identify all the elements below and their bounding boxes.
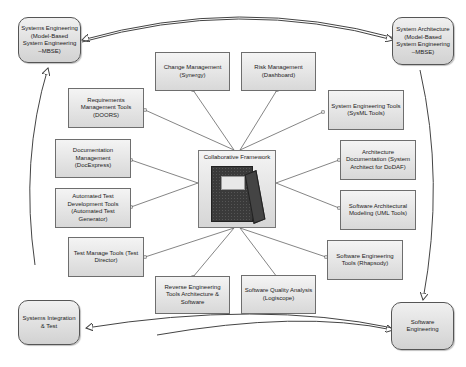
box-label: Automated Test Development Tools (Automa… xyxy=(58,193,128,223)
architecture-documentation-box: Architecture Documentation (System Archi… xyxy=(340,140,416,180)
node-label: Systems Engineering (Model-Based System … xyxy=(21,25,78,55)
node-label: System Architecture (Model-Based System … xyxy=(395,26,451,56)
node-label: Systems Integration & Test xyxy=(21,315,77,330)
systems-integration-test-node: Systems Integration & Test xyxy=(18,300,80,345)
risk-management-box: Risk Management (Dashboard) xyxy=(241,52,316,91)
system-architecture-node: System Architecture (Model-Based System … xyxy=(392,17,454,65)
collaborative-framework-hub: Collaborative Framework xyxy=(198,150,276,228)
box-label: Documentation Management (DocExpress) xyxy=(58,147,128,170)
requirements-management-box: Requirements Management Tools (DOORS) xyxy=(68,88,144,128)
documentation-management-box: Documentation Management (DocExpress) xyxy=(55,139,131,178)
box-label: Software Architectural Modeling (UML Too… xyxy=(343,203,413,218)
test-manage-tools-box: Test Manage Tools (Test Director) xyxy=(68,237,144,277)
hub-title: Collaborative Framework xyxy=(199,154,275,160)
box-label: Requirements Management Tools (DOORS) xyxy=(71,97,141,120)
automated-test-development-box: Automated Test Development Tools (Automa… xyxy=(55,188,131,228)
software-engineering-node: Software Engineering xyxy=(391,302,454,350)
box-label: Software Engineering Tools (Rhapsody) xyxy=(330,253,400,268)
software-quality-analysis-box: Software Quality Analysis (Logiscope) xyxy=(241,275,316,314)
box-label: Reverse Engineering Tools Architecture &… xyxy=(158,284,227,307)
system-engineering-tools-box: System Engineering Tools (SysML Tools) xyxy=(328,90,404,130)
box-label: Test Manage Tools (Test Director) xyxy=(71,250,141,265)
systems-engineering-node: Systems Engineering (Model-Based System … xyxy=(18,17,81,63)
box-label: Software Quality Analysis (Logiscope) xyxy=(244,287,313,302)
box-label: Architecture Documentation (System Archi… xyxy=(343,149,413,172)
reverse-engineering-tools-box: Reverse Engineering Tools Architecture &… xyxy=(155,276,230,314)
box-label: Change Management (Synergy) xyxy=(158,64,227,79)
software-engineering-tools-box: Software Engineering Tools (Rhapsody) xyxy=(327,240,403,280)
change-management-box: Change Management (Synergy) xyxy=(155,52,230,91)
box-label: System Engineering Tools (SysML Tools) xyxy=(331,103,401,118)
node-label: Software Engineering xyxy=(394,319,451,334)
box-label: Risk Management (Dashboard) xyxy=(244,64,313,79)
software-architectural-modeling-box: Software Architectural Modeling (UML Too… xyxy=(340,190,416,230)
